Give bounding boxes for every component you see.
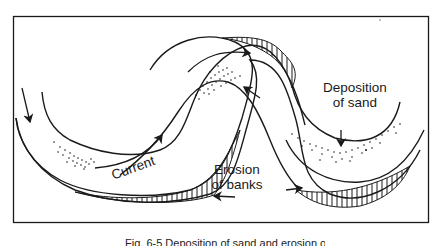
label-erosion-line1: Erosion [206, 162, 268, 177]
sand-deposit-left [53, 141, 95, 170]
label-erosion-of-banks: Erosion of banks [206, 162, 268, 192]
flow-arrow-left [22, 88, 30, 122]
river-bank-inner-left [42, 45, 305, 154]
label-deposition-line1: Deposition [315, 80, 395, 95]
erosion-area-right [296, 166, 410, 207]
speck [379, 19, 380, 20]
label-deposition-of-sand: Deposition of sand [315, 80, 395, 110]
label-deposition-line2: of sand [315, 95, 395, 110]
erosion-area-top [222, 37, 295, 88]
flow-arrow-erosion-left [214, 196, 235, 197]
label-erosion-line2: of banks [206, 177, 268, 192]
sand-deposit-right [291, 123, 401, 163]
flow-arrow-erosion-right [286, 188, 302, 190]
river-meander-illustration [0, 0, 442, 246]
meander-diagram: Current Erosion of banks Deposition of s… [0, 0, 442, 246]
figure-caption: Fig. 6-5 Deposition of sand and erosion … [125, 236, 325, 246]
